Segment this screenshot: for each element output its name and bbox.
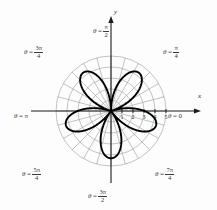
theta-symbol: θ (93, 28, 96, 35)
fraction-denominator: 2 (100, 197, 105, 204)
x-axis-arrowhead (194, 108, 201, 113)
fraction: 3π2 (98, 189, 107, 203)
theta-value: π (24, 113, 28, 120)
theta-5pi-4-label: θ=5π4 (22, 167, 41, 181)
tick-label-2: 2 (130, 114, 136, 120)
equals-symbol: = (19, 113, 23, 120)
tick-label-3: 3 (141, 114, 147, 120)
grid-ray-30 (111, 84, 159, 112)
equals-symbol: = (173, 113, 177, 120)
theta-0-label: θ=0 (168, 113, 182, 120)
fraction: π4 (173, 45, 178, 59)
theta-3pi-2-label: θ=3π2 (88, 189, 107, 203)
theta-7pi-4-label: θ=7π4 (155, 167, 174, 181)
fraction: π2 (103, 24, 108, 38)
theta-pi-2-label: θ=π2 (93, 24, 109, 38)
y-axis-label: y (114, 8, 117, 16)
fraction-denominator: 4 (36, 53, 41, 60)
theta-3pi-4-label: θ=3π4 (24, 45, 43, 59)
equals-symbol: = (93, 193, 97, 200)
equals-symbol: = (160, 171, 164, 178)
theta-pi-label: θ=π (14, 113, 28, 120)
tick-label-5: 5 (163, 114, 169, 120)
fraction: 3π4 (34, 45, 43, 59)
grid-ray-45 (111, 72, 150, 111)
polar-rose-figure: x y θ=0θ=π4θ=π2θ=3π4θ=πθ=5π4θ=3π2θ=7π4 1… (0, 0, 217, 210)
tick-label-1: 1 (119, 114, 125, 120)
theta-symbol: θ (163, 49, 166, 56)
fraction: 5π4 (32, 167, 41, 181)
grid-ray-150 (63, 84, 111, 112)
x-axis-label: x (198, 92, 201, 100)
fraction-denominator: 4 (173, 53, 178, 60)
fraction-denominator: 4 (34, 175, 39, 182)
fraction: 7π4 (165, 167, 174, 181)
fraction-denominator: 2 (103, 32, 108, 39)
equals-symbol: = (27, 171, 31, 178)
theta-symbol: θ (14, 113, 17, 120)
theta-symbol: θ (22, 171, 25, 178)
theta-symbol: θ (88, 193, 91, 200)
tick-label-4: 4 (152, 114, 158, 120)
equals-symbol: = (29, 49, 33, 56)
equals-symbol: = (168, 49, 172, 56)
y-axis-arrowhead (108, 16, 113, 23)
theta-value: 0 (178, 113, 182, 120)
fraction-denominator: 4 (167, 175, 172, 182)
theta-pi-4-label: θ=π4 (163, 45, 179, 59)
theta-symbol: θ (24, 49, 27, 56)
grid-ray-135 (72, 72, 111, 111)
cartesian-axes (31, 16, 201, 183)
theta-symbol: θ (155, 171, 158, 178)
equals-symbol: = (98, 28, 102, 35)
